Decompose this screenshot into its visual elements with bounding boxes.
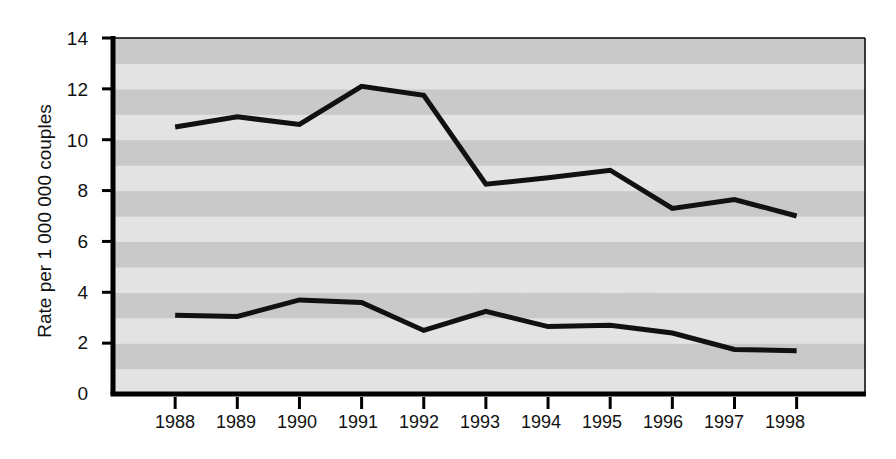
x-tick-label-1990: 1990 — [262, 412, 332, 432]
y-tick-label-12: 12 — [48, 80, 88, 100]
background-band — [113, 191, 865, 217]
y-tick-label-10: 10 — [48, 131, 88, 151]
background-band — [113, 140, 865, 166]
x-tick-label-1991: 1991 — [323, 412, 393, 432]
plot-background-bands — [113, 38, 865, 395]
series-annotation-female-symbol: N — [580, 108, 594, 129]
x-tick-label-1997: 1997 — [689, 412, 759, 432]
background-band — [113, 318, 865, 344]
series-annotation-male: Male victims N = 222 — [478, 277, 655, 299]
background-band — [113, 343, 865, 369]
y-tick-label-2: 2 — [48, 333, 88, 353]
x-tick-label-1998: 1998 — [750, 412, 820, 432]
series-annotation-female: Female victims N = 763 — [448, 108, 647, 130]
y-tick-label-8: 8 — [48, 181, 88, 201]
y-axis-title: Rate per 1 000 000 couples — [30, 6, 60, 436]
series-line-female — [175, 86, 796, 216]
y-tick-label-6: 6 — [48, 232, 88, 252]
x-tick-label-1993: 1993 — [445, 412, 515, 432]
series-annotation-male-symbol: N — [588, 277, 602, 298]
background-band — [113, 216, 865, 242]
x-tick-label-1994: 1994 — [506, 412, 576, 432]
y-tick-label-4: 4 — [48, 283, 88, 303]
y-tick-label-14: 14 — [48, 29, 88, 49]
y-tick-label-0: 0 — [48, 384, 88, 404]
x-tick-label-1996: 1996 — [628, 412, 698, 432]
background-band — [113, 241, 865, 267]
series-line-male — [175, 300, 796, 351]
background-band — [113, 63, 865, 89]
x-tick-label-1995: 1995 — [567, 412, 637, 432]
background-band — [113, 165, 865, 191]
x-tick-label-1989: 1989 — [201, 412, 271, 432]
series-annotation-female-prefix: Female victims — [448, 108, 580, 129]
series-annotation-female-suffix: = 763 — [594, 108, 647, 129]
plot-area — [0, 0, 896, 459]
x-tick-label-1992: 1992 — [384, 412, 454, 432]
series-annotation-male-prefix: Male victims — [478, 277, 588, 298]
axis-lines-group — [102, 36, 866, 409]
background-band — [113, 369, 865, 395]
background-band — [113, 38, 865, 64]
line-chart-figure: Rate per 1 000 000 couples 14 12 10 8 6 … — [0, 0, 896, 459]
series-annotation-male-suffix: = 222 — [602, 277, 655, 298]
x-tick-label-1988: 1988 — [140, 412, 210, 432]
